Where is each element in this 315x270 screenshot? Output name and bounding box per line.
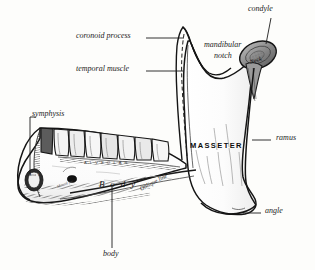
- label-mental-tubercle-line3: TUB: [28, 181, 41, 185]
- label-alveolar-band: A L V E O L A R: [84, 160, 128, 165]
- label-body-leader: body: [103, 250, 119, 258]
- label-temporal-muscle: temporal muscle: [76, 65, 129, 73]
- tooth-molar-2: [54, 129, 69, 156]
- anatomical-figure-mandible: condyle mandibular notch coronoid proces…: [0, 0, 315, 270]
- tooth-molar-3: [41, 128, 53, 154]
- label-body-inner: B o d y: [99, 179, 137, 189]
- label-mandibular-notch-line2: notch: [214, 52, 232, 60]
- tooth-incisor-central: [152, 139, 169, 161]
- label-coronoid-process: coronoid process: [76, 32, 131, 40]
- label-condyle: condyle: [248, 5, 273, 13]
- tooth-incisor-lateral: [135, 137, 152, 160]
- label-mandibular-notch-line1: mandibular: [204, 41, 241, 49]
- label-angle: angle: [265, 207, 283, 215]
- tooth-premolar-2: [85, 131, 101, 158]
- label-masseter: MASSETER: [190, 141, 243, 150]
- label-symphysis: symphysis: [32, 110, 64, 118]
- tooth-premolar-1: [101, 133, 118, 159]
- mandible-drawing: [0, 0, 315, 270]
- tooth-molar-1: [69, 130, 85, 157]
- label-ramus: ramus: [276, 134, 296, 142]
- tooth-canine: [118, 135, 135, 160]
- leader-condyle: [266, 18, 271, 44]
